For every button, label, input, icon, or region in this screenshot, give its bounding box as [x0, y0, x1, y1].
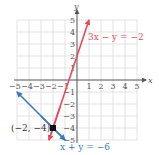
intersection-point	[50, 125, 56, 131]
equation-label-red: 3x − y = −2	[88, 32, 144, 42]
svg-text:−5: −5	[9, 82, 21, 91]
line-3x-minus-y-end	[49, 107, 60, 140]
svg-text:5: 5	[134, 82, 139, 91]
svg-text:4: 4	[122, 82, 127, 91]
x-axis-label: x	[148, 76, 153, 85]
svg-text:−4: −4	[21, 82, 33, 91]
svg-text:3: 3	[110, 82, 115, 91]
svg-text:−2: −2	[63, 100, 75, 109]
coordinate-graph: x y −5 −4 −3 −2 −1 1 2 3 4 5 5 4 3 2 1 −…	[0, 0, 159, 155]
y-axis-label: y	[73, 2, 79, 11]
svg-text:4: 4	[70, 28, 75, 37]
svg-text:−2: −2	[45, 82, 57, 91]
svg-text:5: 5	[70, 16, 75, 25]
intersection-label: (−2, −4)	[11, 123, 50, 133]
svg-text:−3: −3	[33, 82, 45, 91]
svg-text:2: 2	[98, 82, 103, 91]
svg-text:3: 3	[70, 40, 75, 49]
equation-label-blue: x + y = −6	[60, 142, 110, 152]
svg-text:2: 2	[70, 52, 75, 61]
svg-text:1: 1	[86, 82, 91, 91]
svg-text:−3: −3	[63, 112, 75, 121]
svg-text:−4: −4	[63, 124, 75, 133]
